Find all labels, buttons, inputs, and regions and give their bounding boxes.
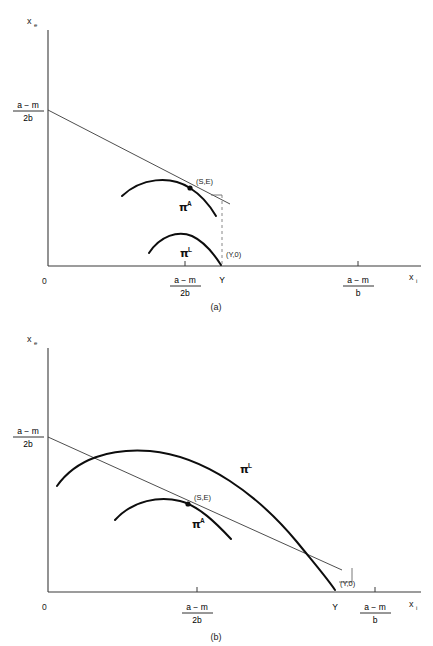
x-axis-label-a: x [409, 272, 414, 282]
y-intercept-numerator-a: a − m [17, 100, 39, 110]
curve-label-pi-l-b-superscript: L [248, 462, 252, 469]
y-axis-label-sub-a: e [34, 22, 38, 28]
caption-a: (a) [211, 302, 222, 312]
curve-label-pi-a-upper-superscript: A [187, 200, 192, 207]
origin-label-a: 0 [42, 276, 47, 286]
caption-b: (b) [211, 632, 222, 642]
curve-label-pi-a-b-superscript: A [200, 517, 205, 524]
tangency-point-label-b: (S,E) [194, 493, 212, 502]
x-tick-full-numerator-a: a − m [347, 275, 369, 285]
figure-container: x e x i 0 a − m 2b a − m 2b Y a − m b (S… [0, 0, 433, 646]
y-intercept-denominator-b: 2b [23, 439, 33, 449]
curve-pi-a-b [115, 499, 231, 539]
x-tick-Y-a: Y [219, 275, 225, 285]
y-intercept-denominator-a: 2b [23, 113, 33, 123]
tangency-point-dot-a [187, 185, 192, 190]
y-zero-point-label-b: (Y,0) [340, 579, 356, 588]
x-tick-full-denominator-a: b [356, 288, 361, 298]
budget-line-b [48, 437, 342, 570]
panel-a: x e x i 0 a − m 2b a − m 2b Y a − m b (S… [0, 0, 433, 320]
origin-label-b: 0 [42, 602, 47, 612]
y-axis-label-b: x [27, 334, 32, 344]
x-axis-label-sub-a: i [416, 278, 417, 284]
tangency-point-label-a: (S,E) [196, 177, 214, 186]
x-tick-Y-b: Y [332, 602, 338, 612]
curve-label-pi-l-lower-a-superscript: L [188, 246, 192, 253]
x-axis-label-b: x [409, 599, 414, 609]
x-tick-half-numerator-b: a − m [186, 602, 208, 612]
x-tick-half-denominator-a: 2b [180, 288, 190, 298]
x-tick-half-numerator-a: a − m [174, 275, 196, 285]
panel-b: x e x i 0 a − m 2b a − m 2b Y a − m b π … [0, 320, 433, 646]
y-axis-label-sub-b: e [34, 340, 38, 346]
x-axis-label-sub-b: i [416, 605, 417, 611]
y-axis-label-a: x [27, 16, 32, 26]
x-tick-full-numerator-b: a − m [364, 602, 386, 612]
y-intercept-numerator-b: a − m [17, 426, 39, 436]
y-zero-point-label-a: (Y,0) [226, 250, 242, 259]
budget-line-a [48, 110, 230, 204]
x-tick-full-denominator-b: b [373, 615, 378, 625]
x-tick-half-denominator-b: 2b [192, 615, 202, 625]
tangency-point-dot-b [185, 501, 190, 506]
